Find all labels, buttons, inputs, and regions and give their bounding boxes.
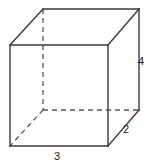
prism-figure: 3 2 4: [0, 0, 153, 167]
front-face-mask: [10, 45, 108, 146]
height-dimension-label: 4: [138, 55, 144, 67]
depth-dimension-label: 2: [123, 123, 129, 135]
prism-diagram: 3 2 4: [0, 0, 153, 167]
width-dimension-label: 3: [54, 150, 60, 162]
